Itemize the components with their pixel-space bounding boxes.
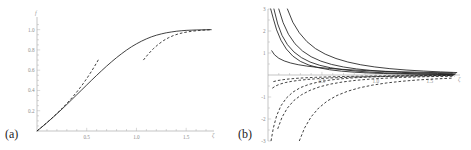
- curve-solid-curve-2: [274, 9, 455, 74]
- tick-label: -3: [261, 138, 266, 144]
- tick-label: 2: [263, 28, 266, 34]
- panel-a-tick-labels: 0.51.01.50.20.40.60.81.0: [28, 27, 190, 140]
- curve-dashed-curve-2: [278, 76, 455, 129]
- tick-label: -1: [261, 94, 266, 100]
- curve-small-zeta-expansion: [37, 59, 99, 131]
- tick-label: 1.5: [183, 134, 190, 140]
- panel-a-y-axis-label: f: [35, 10, 38, 16]
- panel-b-x-axis-label: ζ: [458, 76, 461, 83]
- tick-label: 1: [263, 50, 266, 56]
- tick-label: 0.2: [28, 108, 35, 114]
- curve-exact-solution: [37, 30, 211, 131]
- panel-b-label: (b): [238, 127, 252, 142]
- curve-dashed-curve-1: [271, 75, 454, 141]
- tick-label: 0.8: [28, 47, 35, 53]
- panel-b-plot: 0.51.01.5-3-2-1123 ζ: [236, 0, 471, 150]
- tick-label: 0.5: [83, 134, 90, 140]
- panel-a-plot: 0.51.01.50.20.40.60.81.0 ζ f: [0, 0, 236, 150]
- panel-a-ticks: [37, 25, 206, 131]
- panel-a-curves: [37, 30, 212, 131]
- tick-label: 1.0: [28, 27, 35, 33]
- figure-container: 0.51.01.50.20.40.60.81.0 ζ f (a) 0.51.01…: [0, 0, 471, 150]
- panel-a-label: (a): [5, 127, 18, 142]
- curve-dashed-curve-4: [272, 76, 452, 89]
- curve-large-zeta-expansion: [143, 30, 212, 60]
- tick-label: 0.4: [28, 87, 35, 93]
- tick-label: 1.0: [133, 134, 140, 140]
- panel-a: 0.51.01.50.20.40.60.81.0 ζ f (a): [0, 0, 236, 150]
- tick-label: 0.6: [28, 67, 35, 73]
- panel-a-axes: [37, 17, 214, 131]
- curve-solid-curve-3: [279, 9, 456, 74]
- tick-label: 1.5: [427, 78, 434, 84]
- panel-b: 0.51.01.5-3-2-1123 ζ (b): [236, 0, 471, 150]
- tick-label: -2: [261, 116, 266, 122]
- curve-dashed-curve-3: [299, 78, 453, 141]
- panel-a-x-axis-label: ζ: [212, 132, 215, 139]
- tick-label: 3: [263, 6, 266, 12]
